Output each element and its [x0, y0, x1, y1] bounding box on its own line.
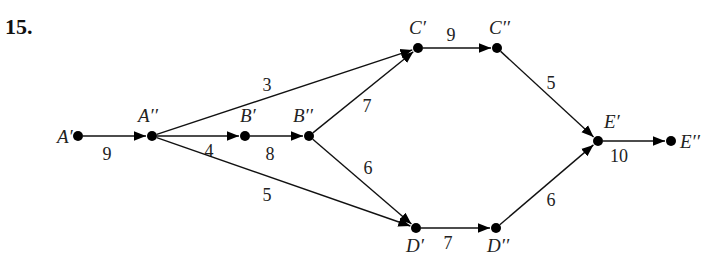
node-label: E′′: [679, 131, 701, 152]
edge-B2-C1: [313, 52, 413, 133]
node-label: E′: [603, 111, 621, 132]
edge-weight: 3: [263, 75, 272, 95]
edge-weight: 9: [103, 144, 112, 164]
node-label: A′: [55, 126, 74, 147]
edge-B2-D1: [313, 139, 412, 224]
node-label: D′′: [486, 235, 510, 256]
node-B1: [240, 131, 250, 141]
edge-A2-D1: [157, 138, 411, 226]
edge-weight: 7: [363, 96, 372, 116]
activity-network-diagram: 9435876957610 A′A′′B′B′′C′C′′D′D′′E′E′′: [0, 0, 727, 263]
node-label: D′: [405, 235, 425, 256]
edge-weight: 9: [447, 25, 456, 45]
edge-C2-E1: [501, 51, 594, 137]
node-label: C′′: [489, 17, 511, 38]
node-A1: [73, 131, 83, 141]
node-label: C′: [409, 17, 427, 38]
node-A2: [147, 131, 157, 141]
edge-weight: 10: [610, 146, 628, 166]
edge-D2-E1: [500, 145, 594, 225]
node-D2: [491, 223, 501, 233]
edge-weight: 5: [263, 185, 272, 205]
node-label: B′: [240, 105, 257, 126]
node-C1: [413, 43, 423, 53]
edge-weight: 7: [444, 233, 453, 253]
edge-A2-C1: [157, 50, 413, 135]
edges: 9435876957610: [83, 25, 665, 253]
edge-weight: 8: [266, 144, 275, 164]
nodes: A′A′′B′B′′C′C′′D′D′′E′E′′: [55, 17, 701, 256]
edge-weight: 6: [547, 190, 556, 210]
edge-weight: 5: [547, 73, 556, 93]
node-E2: [666, 136, 676, 146]
edge-weight: 4: [205, 141, 214, 161]
node-E1: [593, 136, 603, 146]
node-B2: [304, 131, 314, 141]
node-label: A′′: [136, 105, 159, 126]
node-label: B′′: [293, 105, 314, 126]
node-C2: [492, 43, 502, 53]
edge-weight: 6: [364, 158, 373, 178]
node-D1: [411, 223, 421, 233]
